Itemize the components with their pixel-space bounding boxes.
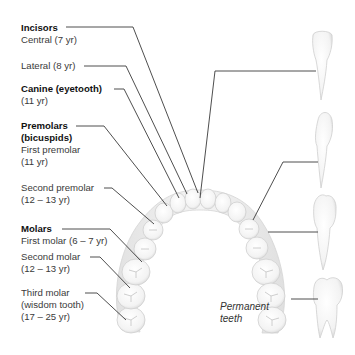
label-second-molar: Second molar (12 – 13 yr) [21,251,80,275]
diagram-caption: Permanent teeth [220,301,269,325]
group-heading-canine: Canine (eyetooth) [21,83,102,94]
caption-line-2: teeth [220,313,242,324]
incisor-profile-icon [313,31,333,100]
side-teeth [313,31,343,338]
label-second-molar-text: Second molar [21,251,80,262]
label-second-molar-age: (12 – 13 yr) [21,263,70,274]
group-heading-bicuspids: (bicuspids) [21,132,72,143]
right-central-incisor [200,189,216,209]
label-lateral-text: Lateral (8 yr) [21,60,75,71]
label-third-molar-age: (17 – 25 yr) [21,311,70,322]
canine-profile-icon [315,113,332,189]
label-incisors: Incisors Central (7 yr) [21,22,77,46]
label-premolars: Premolars (bicuspids) First premolar (11… [21,120,80,168]
label-second-premolar: Second premolar (12 – 13 yr) [21,182,94,206]
label-second-premolar-age: (12 – 13 yr) [21,194,70,205]
label-first-premolar-age: (11 yr) [21,156,48,167]
label-central-incisor: Central (7 yr) [21,34,77,45]
label-third-molar: Third molar (wisdom tooth) (17 – 25 yr) [21,287,84,323]
leader-canine-profile [253,162,318,220]
leader-incisor-profile [200,71,316,198]
label-first-molar: First molar (6 – 7 yr) [21,235,107,246]
right-canine [228,202,246,222]
group-heading-incisors: Incisors [21,22,58,33]
label-wisdom-tooth: (wisdom tooth) [21,299,84,310]
label-canine: Canine (eyetooth) (11 yr) [21,83,102,107]
leader-canine [114,89,179,198]
left-central-incisor [185,189,201,209]
label-third-molar-text: Third molar [21,287,70,298]
label-second-premolar-text: Second premolar [21,182,94,193]
group-heading-premolars: Premolars [21,120,68,131]
caption-line-1: Permanent [220,301,269,312]
leader-central-incisor [66,27,198,193]
label-canine-age: (11 yr) [21,95,48,106]
group-heading-molars: Molars [21,223,52,234]
molar-profile-icon [313,278,342,338]
label-lateral-incisor: Lateral (8 yr) [21,60,75,72]
label-molars: Molars First molar (6 – 7 yr) [21,223,107,247]
label-first-premolar: First premolar [21,144,80,155]
